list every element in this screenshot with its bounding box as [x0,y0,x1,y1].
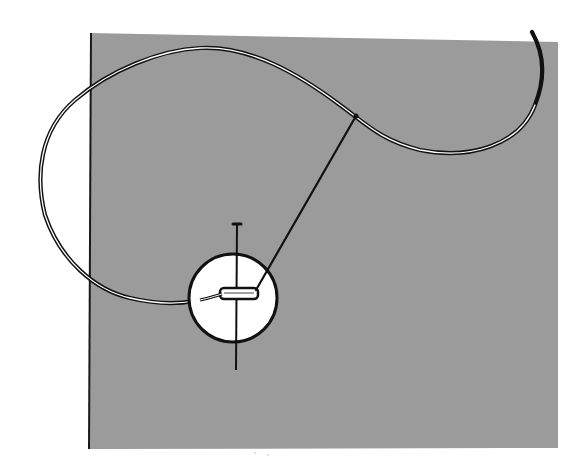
button-sewing-illustration [0,0,585,473]
print-specks [254,452,269,456]
